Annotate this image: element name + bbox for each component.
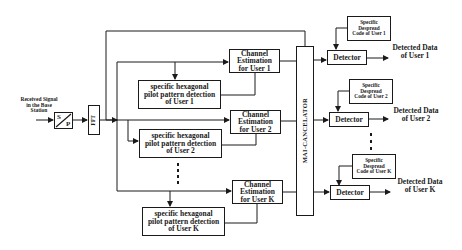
ellipsis-dot <box>177 169 179 172</box>
mai-canceller-block: MAI-CANCELATOR <box>296 46 314 216</box>
code-line: Code of User K <box>357 169 392 175</box>
sp-label-p: P <box>66 121 70 128</box>
ellipsis-dot <box>370 147 372 150</box>
output-label-user-k: Detected Data of User K <box>389 178 451 193</box>
ellipsis-dot <box>370 140 372 143</box>
hex-line: of User K <box>168 225 199 233</box>
serial-to-parallel-block: S P <box>54 112 73 129</box>
despread-code-user-1: Specific Despread Code of User 1 <box>347 16 391 41</box>
channel-estimation-user-2: Channel Estimation for User 2 <box>230 110 281 134</box>
channel-estimation-user-1: Channel Estimation for User 1 <box>229 49 280 73</box>
hex-line: of User 2 <box>166 147 195 155</box>
ellipsis-dot <box>177 181 179 184</box>
ellipsis-dot <box>177 163 179 166</box>
hex-line: of User 1 <box>165 98 194 106</box>
pilot-detection-user-2: specific hexagonal pilot pattern detecti… <box>139 129 222 158</box>
sp-label-s: S <box>57 114 61 121</box>
fft-label: FFT <box>91 115 97 125</box>
code-line: Code of User 2 <box>354 94 387 100</box>
detector-label: Detector <box>335 116 362 124</box>
pilot-detection-user-1: specific hexagonal pilot pattern detecti… <box>138 80 221 109</box>
code-line: Code of User 1 <box>352 31 385 37</box>
detector-user-k: Detector <box>330 185 370 200</box>
output-label-user-2: Detected Data of User 2 <box>385 107 447 122</box>
ce-line: for User K <box>241 196 275 204</box>
detector-label: Detector <box>336 189 363 197</box>
detector-user-1: Detector <box>327 50 367 65</box>
despread-code-user-2: Specific Despread Code of User 2 <box>349 79 393 104</box>
ellipsis-dot <box>177 175 179 178</box>
output-line: of User 1 <box>384 52 446 60</box>
output-line: of User K <box>389 186 451 194</box>
output-label-user-1: Detected Data of User 1 <box>384 44 446 59</box>
detector-user-2: Detector <box>329 112 369 127</box>
fft-block: FFT <box>88 105 100 135</box>
ce-line: for User 1 <box>239 65 271 73</box>
receiver-block-diagram: Received Signal in the Base Station S P … <box>0 0 462 250</box>
mai-label: MAI-CANCELATOR <box>302 98 309 163</box>
channel-estimation-user-k: Channel Estimation for User K <box>232 180 283 204</box>
ce-line: for User 2 <box>240 126 272 134</box>
pilot-detection-user-k: specific hexagonal pilot pattern detecti… <box>142 207 225 236</box>
detector-label: Detector <box>333 54 360 62</box>
ellipsis-dot <box>370 133 372 136</box>
despread-code-user-k: Specific Despread Code of User K <box>352 154 396 179</box>
output-line: of User 2 <box>385 115 447 123</box>
